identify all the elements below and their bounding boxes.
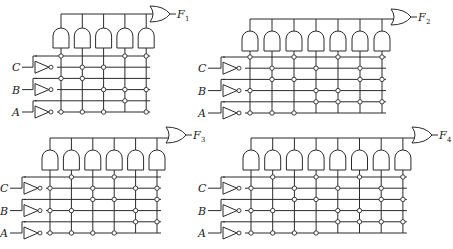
connection-dot — [69, 208, 73, 212]
inverter-bubble-icon — [49, 110, 53, 114]
connection-dot — [292, 77, 296, 81]
and-gate-1 — [242, 31, 258, 51]
output-subscript: 4 — [447, 136, 452, 144]
connection-dot — [358, 100, 362, 104]
or-gate — [412, 127, 432, 143]
connection-dot — [336, 186, 340, 190]
connection-dot — [336, 88, 340, 92]
connection-dot — [48, 231, 52, 235]
connection-dot — [248, 55, 252, 59]
inverter-A — [24, 227, 38, 239]
connection-dot — [59, 76, 63, 80]
inverter-C — [223, 62, 237, 74]
inverter-bubble-icon — [38, 231, 42, 235]
input-label-A: A — [0, 227, 8, 240]
connection-dot — [155, 186, 159, 190]
and-gate-1 — [42, 150, 58, 170]
connection-dot — [69, 175, 73, 179]
connection-dot — [380, 100, 384, 104]
connection-dot — [270, 111, 274, 115]
connection-dot — [270, 77, 274, 81]
connection-dot — [59, 110, 63, 114]
inverter-bubble-icon — [38, 209, 42, 213]
input-label-A: A — [11, 106, 20, 119]
inverter-bubble-icon — [237, 209, 241, 213]
connection-dot — [292, 197, 296, 201]
output-label-f3: F — [192, 129, 201, 142]
output-label-f1: F — [176, 8, 185, 21]
and-gate-4 — [308, 31, 324, 51]
and-gate-2 — [265, 150, 281, 170]
and-gate-7 — [374, 31, 390, 51]
connection-dot — [314, 197, 318, 201]
connection-dot — [379, 220, 383, 224]
and-gate-1 — [243, 150, 259, 170]
connection-dot — [48, 208, 52, 212]
input-label-C: C — [0, 182, 9, 195]
connection-dot — [336, 220, 340, 224]
output-subscript: 2 — [426, 18, 430, 26]
inverter-A — [223, 107, 237, 119]
and-gate-3 — [286, 150, 302, 170]
connection-dot — [401, 175, 405, 179]
output-label-f2: F — [417, 11, 426, 24]
inverter-A — [223, 227, 237, 239]
connection-dot — [80, 65, 84, 69]
inverter-C — [223, 182, 237, 194]
connection-dot — [292, 55, 296, 59]
connection-dot — [80, 76, 84, 80]
inverter-bubble-icon — [49, 88, 53, 92]
connection-dot — [358, 66, 362, 70]
output-label-f4: F — [438, 129, 447, 142]
connection-dot — [380, 77, 384, 81]
and-gate-4 — [106, 150, 122, 170]
and-gate-3 — [286, 31, 302, 51]
and-gate-8 — [395, 150, 411, 170]
and-gate-2 — [63, 150, 79, 170]
connection-dot — [249, 231, 253, 235]
connection-dot — [112, 175, 116, 179]
and-gate-2 — [264, 31, 280, 51]
connection-dot — [249, 208, 253, 212]
connection-dot — [248, 88, 252, 92]
and-gate-5 — [330, 31, 346, 51]
and-gate-5 — [128, 150, 144, 170]
and-gate-4 — [117, 28, 133, 48]
connection-dot — [314, 88, 318, 92]
inverter-B — [223, 85, 237, 97]
connection-dot — [91, 186, 95, 190]
connection-dot — [357, 175, 361, 179]
connection-dot — [314, 231, 318, 235]
inverter-bubble-icon — [38, 186, 42, 190]
logic-diagram: CBAF1CBAF2CBAF3CBAF4 — [0, 0, 453, 249]
and-gate-4 — [308, 150, 324, 170]
input-label-A: A — [197, 107, 206, 120]
inverter-A — [35, 106, 49, 118]
connection-dot — [123, 54, 127, 58]
inverter-B — [35, 84, 49, 96]
connection-dot — [336, 100, 340, 104]
output-subscript: 3 — [201, 136, 205, 144]
or-gate — [150, 6, 170, 22]
connection-dot — [123, 87, 127, 91]
connection-dot — [123, 99, 127, 103]
and-gate-5 — [138, 28, 154, 48]
and-gate-5 — [330, 150, 346, 170]
inverter-bubble-icon — [237, 66, 241, 70]
inverter-bubble-icon — [237, 111, 241, 115]
connection-dot — [144, 87, 148, 91]
and-gate-1 — [53, 28, 69, 48]
output-subscript: 1 — [185, 15, 189, 23]
or-gate — [391, 9, 411, 25]
circuit-f3: CBAF3 — [0, 127, 205, 240]
circuit-f1: CBAF1 — [11, 6, 189, 119]
connection-dot — [379, 186, 383, 190]
connection-dot — [101, 110, 105, 114]
connection-dot — [133, 220, 137, 224]
input-label-B: B — [0, 205, 8, 218]
connection-dot — [314, 66, 318, 70]
input-label-C: C — [12, 61, 21, 74]
connection-dot — [270, 66, 274, 70]
inverter-bubble-icon — [49, 65, 53, 69]
connection-dot — [314, 100, 318, 104]
